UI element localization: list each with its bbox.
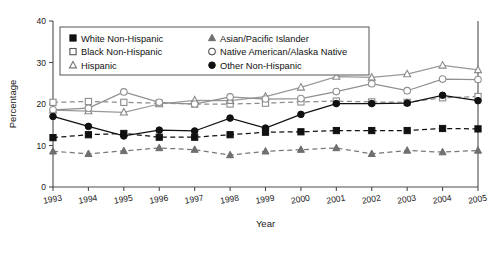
data-point-marker [191,146,198,153]
x-tick-label: 2003 [396,192,417,205]
data-point-marker [439,62,446,69]
y-tick-label: 0 [41,182,46,192]
legend-label: Hispanic [81,61,117,71]
data-point-marker [85,98,91,104]
x-tick-label: 2004 [432,192,453,205]
y-axis-title: Percentage [7,80,18,129]
data-point-marker [227,132,233,138]
x-tick-label: 1994 [78,192,99,205]
data-point-marker [50,107,57,114]
data-point-marker [85,123,92,130]
data-point-marker [262,96,269,103]
y-tick-label: 10 [37,141,47,151]
legend-label: Black Non-Hispanic [81,47,162,57]
data-point-marker [298,129,304,135]
x-tick-label: 2000 [290,192,311,205]
data-point-marker [368,80,375,87]
x-tick-label: 2005 [467,192,488,205]
data-point-marker [262,148,269,155]
series-hispanic [50,144,482,158]
data-point-marker [475,147,482,154]
data-point-marker [191,101,198,108]
x-tick-label: 1999 [255,192,276,205]
data-point-marker [209,48,216,55]
data-point-marker [227,94,234,101]
data-point-marker [121,89,128,96]
data-point-marker [85,105,92,112]
x-tick-label: 1995 [113,192,134,205]
data-point-marker [85,132,91,138]
data-point-marker [227,115,234,122]
data-point-marker [439,92,446,99]
data-point-marker [156,127,163,134]
line-chart: 0102030401993199419951996199719981999200… [0,0,498,255]
x-axis-title: Year [256,218,275,229]
x-tick-label: 1993 [42,192,63,205]
data-point-marker [50,99,56,105]
data-point-marker [209,62,216,69]
legend-label: Other Non-Hispanic [220,61,302,71]
data-point-marker [333,144,340,151]
data-point-marker [70,35,76,41]
data-point-marker [192,134,198,140]
data-point-marker [70,49,76,55]
data-point-marker [333,88,340,95]
data-point-marker [156,99,163,106]
data-point-marker [368,100,375,107]
data-point-marker [404,147,411,154]
data-point-marker [191,128,198,135]
x-tick-label: 1997 [184,192,205,205]
legend-label: Native American/Alaska Native [220,47,347,57]
data-point-marker [297,146,304,153]
y-tick-label: 20 [37,99,47,109]
data-point-marker [369,127,375,133]
data-point-marker [333,100,340,107]
data-point-marker [121,133,128,140]
data-point-marker [50,135,56,141]
data-point-marker [120,147,127,154]
data-point-marker [404,127,410,133]
legend-label: White Non-Hispanic [81,34,164,44]
x-tick-label: 2001 [326,192,347,205]
data-point-marker [404,87,411,94]
y-tick-label: 30 [37,58,47,68]
data-point-marker [298,111,305,118]
data-point-marker [298,95,305,102]
data-point-marker [262,125,269,132]
x-tick-label: 1998 [219,192,240,205]
y-tick-label: 40 [37,16,47,26]
x-tick-label: 2002 [361,192,382,205]
data-point-marker [404,100,411,107]
data-point-marker [475,97,482,104]
data-point-marker [50,148,57,155]
chart-container: 0102030401993199419951996199719981999200… [0,0,498,255]
data-point-marker [333,127,339,133]
data-point-marker [475,126,481,132]
legend: White Non-HispanicBlack Non-HispanicHisp… [60,27,369,75]
data-point-marker [156,134,162,140]
data-point-marker [50,113,57,120]
data-point-marker [156,144,163,151]
legend-label: Asian/Pacific Islander [220,34,309,44]
data-point-marker [439,125,445,131]
data-point-marker [439,76,446,83]
x-tick-label: 1996 [149,192,170,205]
data-point-marker [475,76,482,83]
data-point-marker [121,99,127,105]
